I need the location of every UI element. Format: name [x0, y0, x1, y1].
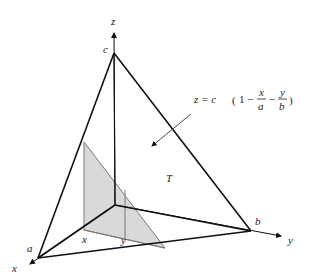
slice-y-label: y [120, 234, 126, 246]
y-axis-label: y [287, 234, 293, 246]
svg-text:−: − [269, 93, 275, 105]
svg-text:b: b [279, 100, 285, 112]
pointer-arrow [152, 114, 191, 146]
svg-text:y: y [279, 86, 285, 98]
z-axis-label: z [110, 15, 116, 27]
svg-text:x: x [258, 86, 264, 98]
x-axis-label: x [11, 262, 17, 274]
svg-text:a: a [258, 100, 264, 112]
svg-text:): ) [289, 94, 293, 107]
region-T-label: T [166, 172, 173, 184]
surface-equation: z = c ( 1 − x a − y b ) [193, 86, 293, 112]
c-label: c [103, 43, 108, 55]
slice-x-label: x [81, 233, 87, 245]
svg-text:1 −: 1 − [239, 93, 253, 105]
svg-text:z = c: z = c [193, 93, 216, 105]
tetrahedron-diagram: z x y c a b T x y z = c ( 1 − x a − y b … [0, 0, 309, 279]
a-label: a [27, 242, 33, 254]
edge-c-b [114, 53, 251, 231]
b-label: b [255, 215, 261, 227]
svg-text:(: ( [232, 94, 236, 107]
